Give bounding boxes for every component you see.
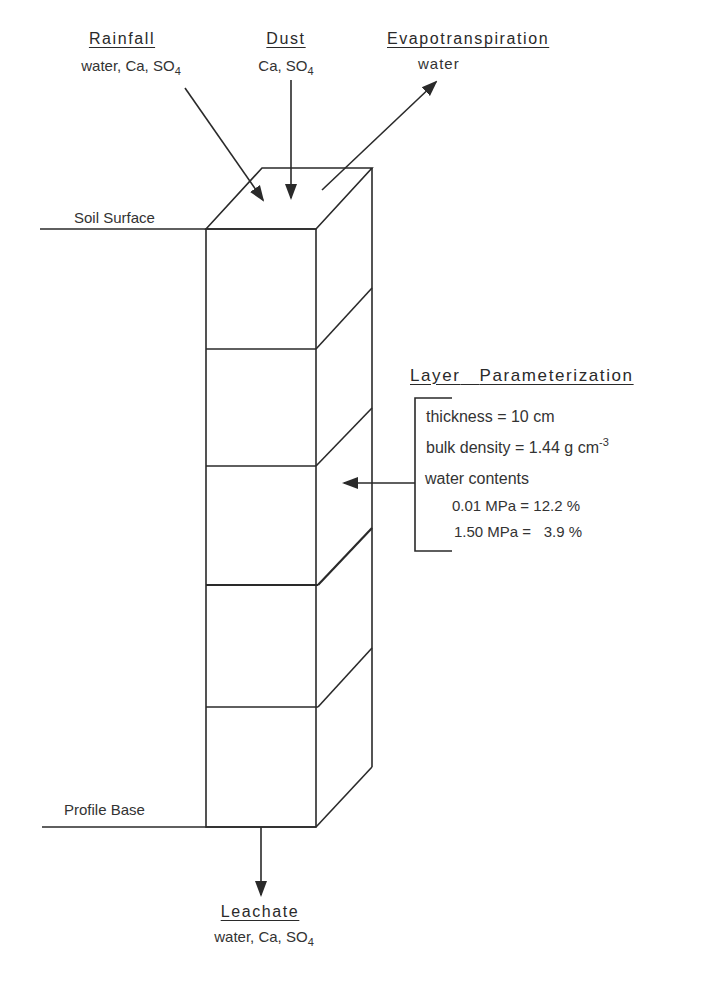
rainfall-subscript: 4 [175,65,181,77]
soil-surface-label: Soil Surface [74,209,155,226]
evapotranspiration-species: water [418,55,460,72]
parameterization-title-word: Parameterization [480,366,634,385]
column-bottom-right-edge [316,767,372,827]
evapotranspiration-arrow [322,82,436,190]
water-content-001-mpa: 0.01 MPa = 12.2 % [452,497,580,514]
bulk-density-text: bulk density = 1.44 g cm [426,439,599,456]
soil-column-diagram [0,0,711,982]
leachate-species: water, Ca, SO4 [214,928,314,945]
dust-species: Ca, SO4 [258,57,313,74]
evapotranspiration-title: Evapotranspiration [387,30,549,48]
rainfall-arrow [185,88,263,200]
rainfall-species-text: water, Ca, SO [81,57,174,74]
leachate-title: Leachate [221,903,300,921]
bulk-density-exponent: -3 [599,436,609,448]
dust-title: Dust [266,30,305,48]
column-top-face [206,168,372,229]
rainfall-species: water, Ca, SO4 [81,57,181,74]
rainfall-title: Rainfall [89,30,155,48]
bulk-density-value: bulk density = 1.44 g cm-3 [426,439,609,457]
leachate-subscript: 4 [308,936,314,948]
water-content-150-mpa: 1.50 MPa = 3.9 % [454,523,582,540]
layer-parameterization-title: Layer Parameterization [410,366,634,386]
leachate-species-text: water, Ca, SO [214,928,307,945]
layer-dividers [206,288,372,707]
layer-title-word: Layer [410,366,461,385]
thickness-value: thickness = 10 cm [426,408,555,426]
profile-base-label: Profile Base [64,801,145,818]
dust-species-text: Ca, SO [258,57,307,74]
column-front-face [206,229,316,827]
dust-subscript: 4 [308,65,314,77]
water-contents-label: water contents [425,470,529,488]
